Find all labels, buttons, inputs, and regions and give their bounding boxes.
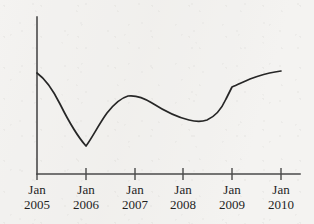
x-axis-label-jan-2010: Jan 2010 [253,182,309,212]
x-axis-label-jan-2008-year: 2008 [155,197,211,212]
chart-figure: Total Number of Tenants Jan 2005 Jan 200… [0,0,314,224]
x-axis-label-jan-2006: Jan 2006 [58,182,114,212]
tenants-series-line [37,71,281,146]
x-axis-label-jan-2005-month: Jan [9,182,65,197]
x-axis-label-jan-2008-month: Jan [155,182,211,197]
x-axis-label-jan-2009-month: Jan [204,182,260,197]
x-axis-label-jan-2005-year: 2005 [9,197,65,212]
x-axis-tick-label-group: Jan 2005 Jan 2006 Jan 2007 Jan 2008 Jan … [0,182,314,222]
x-axis-label-jan-2006-month: Jan [58,182,114,197]
x-axis-label-jan-2010-month: Jan [253,182,309,197]
chart-axes [37,17,300,174]
x-axis-label-jan-2005: Jan 2005 [9,182,65,212]
x-axis-label-jan-2008: Jan 2008 [155,182,211,212]
x-axis-label-jan-2006-year: 2006 [58,197,114,212]
x-axis-label-jan-2009-year: 2009 [204,197,260,212]
x-axis-label-jan-2009: Jan 2009 [204,182,260,212]
x-axis-label-jan-2010-year: 2010 [253,197,309,212]
